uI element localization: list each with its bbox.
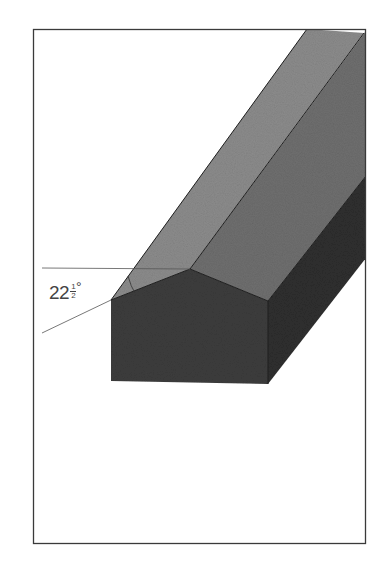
pitch-reference-line: [42, 300, 111, 333]
pitch-angle-label: 2212°: [49, 282, 81, 304]
roof-pitch-diagram: 2212°: [0, 0, 392, 573]
angle-whole: 22: [49, 282, 69, 303]
degree-symbol: °: [76, 279, 81, 295]
